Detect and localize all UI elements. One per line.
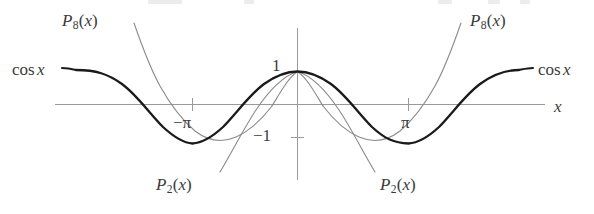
cos-variable-left: x bbox=[37, 60, 45, 79]
p8-curve-left bbox=[134, 23, 272, 140]
label-p2-right: P2(x) bbox=[380, 176, 416, 196]
taylor-cosine-figure: cosx cosx P8(x) P8(x) P2(x) P2(x) 1 −1 −… bbox=[0, 0, 594, 214]
p8-base-left: P bbox=[62, 11, 72, 30]
p8-arg-left: x bbox=[84, 11, 92, 30]
p8-arg-right: x bbox=[492, 11, 500, 30]
p8-base-right: P bbox=[470, 11, 480, 30]
p2-arg-left: x bbox=[178, 175, 186, 194]
cos-variable-right: x bbox=[563, 60, 571, 79]
xtick-label-minus-pi: −π bbox=[173, 114, 191, 131]
cos-label-leader-right bbox=[519, 68, 533, 70]
cos-label-leader-left bbox=[62, 68, 76, 70]
cos-function-name-right: cos bbox=[538, 60, 561, 79]
x-axis-label: x bbox=[554, 98, 562, 115]
label-cos-right: cosx bbox=[538, 61, 571, 78]
label-p2-left: P2(x) bbox=[156, 176, 192, 196]
label-p8-right: P8(x) bbox=[470, 12, 506, 32]
ytick-label-minus-one: −1 bbox=[253, 127, 271, 144]
p2-base-left: P bbox=[156, 175, 166, 194]
p2-arg-right: x bbox=[402, 175, 410, 194]
ytick-label-one: 1 bbox=[272, 57, 281, 74]
label-p8-left: P8(x) bbox=[62, 12, 98, 32]
plot-canvas bbox=[0, 0, 594, 214]
p8-curve-right bbox=[323, 23, 461, 140]
p2-base-right: P bbox=[380, 175, 390, 194]
xtick-label-pi: π bbox=[401, 114, 410, 131]
cos-function-name-left: cos bbox=[12, 60, 35, 79]
label-cos-left: cosx bbox=[12, 61, 45, 78]
